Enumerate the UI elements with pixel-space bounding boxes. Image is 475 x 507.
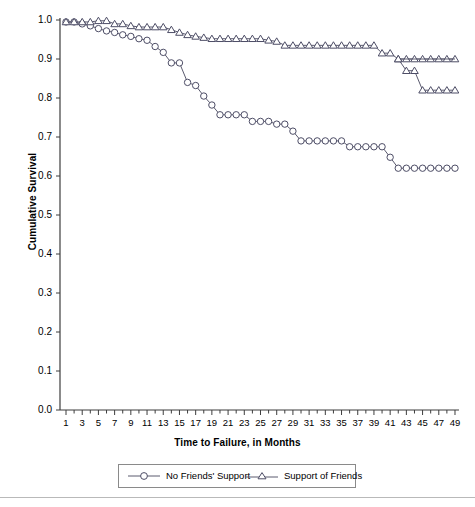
data-point-circle	[427, 165, 433, 171]
data-point-circle	[168, 60, 174, 66]
survival-chart: Cumulative Survival Time to Failure, in …	[0, 0, 475, 507]
data-point-circle	[346, 144, 352, 150]
data-point-circle	[452, 165, 458, 171]
data-point-circle	[144, 37, 150, 43]
data-point-circle	[152, 43, 158, 49]
chart-legend: No Friends' Support Support of Friends	[118, 464, 356, 488]
data-point-circle	[103, 28, 109, 34]
legend-label-no-friends-support: No Friends' Support	[166, 471, 250, 481]
data-point-circle	[95, 25, 101, 31]
data-point-circle	[160, 49, 166, 55]
data-point-circle	[444, 165, 450, 171]
data-point-circle	[176, 60, 182, 66]
data-point-circle	[363, 144, 369, 150]
y-tick-label: 0.5	[18, 210, 52, 220]
data-point-circle	[257, 118, 263, 124]
data-point-circle	[192, 82, 198, 88]
series-line-support-of-friends-tail	[398, 59, 455, 90]
legend-triangle-marker-icon	[245, 469, 279, 483]
legend-entry-no-friends-support: No Friends' Support	[127, 465, 250, 487]
data-point-circle	[330, 138, 336, 144]
data-point-circle	[209, 102, 215, 108]
axis-layer	[56, 18, 459, 415]
data-point-circle	[298, 138, 304, 144]
y-tick-label: 0.3	[18, 288, 52, 298]
data-point-circle	[436, 165, 442, 171]
y-tick-label: 0.8	[18, 93, 52, 103]
y-tick-label: 0.1	[18, 366, 52, 376]
y-tick-label: 0.9	[18, 54, 52, 64]
data-point-circle	[322, 138, 328, 144]
legend-circle-marker-icon	[127, 469, 161, 483]
series-layer	[62, 17, 459, 171]
data-point-circle	[387, 154, 393, 160]
data-point-circle	[265, 118, 271, 124]
data-point-circle	[379, 144, 385, 150]
plot-canvas	[0, 0, 475, 507]
data-point-circle	[274, 121, 280, 127]
data-point-circle	[225, 112, 231, 118]
data-point-circle	[111, 29, 117, 35]
data-point-circle	[184, 79, 190, 85]
data-point-circle	[233, 112, 239, 118]
data-point-circle	[241, 112, 247, 118]
y-tick-label: 0.2	[18, 327, 52, 337]
data-point-circle	[128, 33, 134, 39]
data-point-circle	[411, 165, 417, 171]
data-point-circle	[217, 112, 223, 118]
y-tick-label: 0.0	[18, 405, 52, 415]
data-point-circle	[282, 121, 288, 127]
data-point-circle	[136, 36, 142, 42]
data-point-circle	[419, 165, 425, 171]
data-point-circle	[120, 32, 126, 38]
data-point-circle	[338, 138, 344, 144]
data-point-circle	[306, 138, 312, 144]
data-point-circle	[314, 138, 320, 144]
data-point-circle	[403, 165, 409, 171]
data-point-circle	[201, 93, 207, 99]
y-tick-label: 0.7	[18, 132, 52, 142]
legend-entry-support-of-friends: Support of Friends	[245, 465, 362, 487]
x-tick-label: 49	[443, 418, 467, 428]
series-line-no-friends-support	[66, 22, 455, 168]
footer-divider	[0, 497, 475, 498]
y-tick-label: 0.6	[18, 171, 52, 181]
data-point-circle	[395, 165, 401, 171]
data-point-circle	[249, 118, 255, 124]
y-tick-label: 0.4	[18, 249, 52, 259]
data-point-circle	[290, 128, 296, 134]
data-point-circle	[371, 144, 377, 150]
legend-label-support-of-friends: Support of Friends	[284, 471, 362, 481]
y-tick-label: 1.0	[18, 15, 52, 25]
data-point-circle	[355, 144, 361, 150]
x-axis-title: Time to Failure, in Months	[0, 437, 475, 448]
